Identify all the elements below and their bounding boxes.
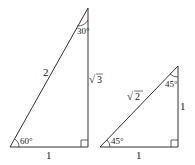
triangle-30-60-90: 60° 30° 2 1 √ 3 — [10, 8, 103, 161]
height-label: 1 — [180, 100, 186, 112]
angle-arc-60 — [15, 139, 20, 147]
right-angle-mark-2 — [171, 140, 178, 147]
hypotenuse-label-sqrt2: √ 2 — [127, 90, 143, 102]
angle-45-bottom-label: 45° — [111, 136, 124, 146]
angle-30-label: 30° — [77, 26, 90, 36]
angle-arc-45-top — [170, 74, 178, 77]
svg-text:√: √ — [127, 90, 134, 102]
triangles-diagram: 60° 30° 2 1 √ 3 45° 45° √ 2 1 1 — [0, 0, 195, 165]
height-label-sqrt3: √ 3 — [89, 73, 103, 85]
right-angle-mark-1 — [81, 140, 88, 147]
angle-arc-45-bottom — [107, 140, 110, 147]
base-label: 1 — [136, 149, 142, 161]
base-label: 1 — [46, 149, 52, 161]
angle-45-top-label: 45° — [165, 79, 178, 89]
sqrt-radicand: 3 — [97, 74, 102, 85]
sqrt-radicand: 2 — [135, 91, 140, 102]
triangle-45-45-90: 45° 45° √ 2 1 1 — [100, 66, 186, 161]
svg-text:√: √ — [89, 73, 96, 85]
hypotenuse-label: 2 — [43, 66, 49, 78]
angle-60-label: 60° — [20, 136, 33, 146]
